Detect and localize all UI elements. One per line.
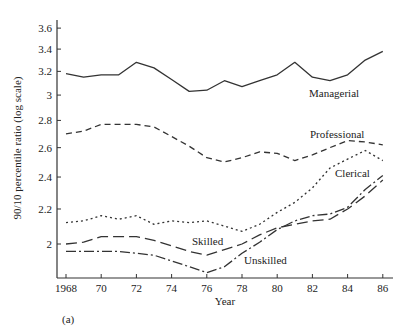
series-line-clerical [66, 151, 383, 232]
series-label-managerial: Managerial [309, 87, 359, 99]
x-tick-label: 1968 [55, 282, 78, 294]
x-tick-label: 84 [342, 282, 354, 294]
series-label-clerical: Clerical [335, 167, 370, 179]
series-label-unskilled: Unskilled [244, 254, 287, 266]
series-line-managerial [66, 51, 383, 91]
y-axis-title: 90/10 percentile ratio (log scale) [11, 76, 24, 219]
y-tick-label: 2 [47, 238, 53, 250]
series-lines [66, 51, 383, 272]
x-tick-label: 76 [201, 282, 213, 294]
y-tick-label: 2.8 [38, 114, 52, 126]
series-line-unskilled [66, 176, 383, 273]
y-tick-label: 3.2 [38, 65, 52, 77]
x-tick-label: 74 [166, 282, 178, 294]
series-label-skilled: Skilled [192, 235, 224, 247]
series-line-skilled [66, 180, 383, 255]
y-tick-label: 3 [47, 89, 53, 101]
y-tick-label: 2.4 [38, 171, 52, 183]
y-tick-label: 2.2 [38, 203, 52, 215]
x-tick-label: 70 [96, 282, 108, 294]
x-axis-title: Year [215, 295, 236, 307]
y-tick-label: 3.6 [38, 22, 52, 34]
x-tick-label: 80 [272, 282, 284, 294]
y-tick-label: 3.4 [38, 43, 52, 55]
x-tick-label: 72 [131, 282, 142, 294]
x-tick-label: 82 [307, 282, 318, 294]
axes [57, 20, 393, 278]
x-tick-label: 86 [377, 282, 389, 294]
line-chart: 22.22.42.62.833.23.43.6 1968707274767880… [0, 0, 413, 332]
y-tick-label: 2.6 [38, 142, 52, 154]
x-ticks: 1968707274767880828486 [55, 274, 389, 294]
x-tick-label: 78 [237, 282, 249, 294]
series-labels: ManagerialProfessionalClericalSkilledUns… [192, 87, 370, 266]
panel-label: (a) [62, 313, 75, 326]
series-label-professional: Professional [310, 128, 364, 140]
